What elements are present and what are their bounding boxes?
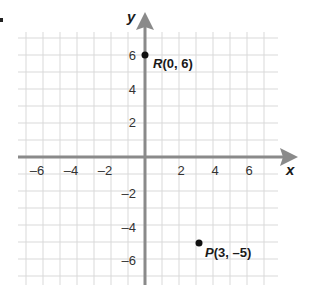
x-tick-label: –4 <box>64 163 78 178</box>
y-tick-label: 2 <box>129 115 136 130</box>
y-tick-label: –6 <box>122 253 136 268</box>
y-tick-label: –4 <box>122 220 136 235</box>
x-tick-label: 6 <box>245 163 252 178</box>
point-p-label: P(3, –5) <box>205 245 251 260</box>
x-axis-title: x <box>285 161 295 178</box>
point-p-coords: (3, –5) <box>214 245 252 260</box>
x-tick-label: 4 <box>211 163 218 178</box>
corner-mark <box>0 18 3 22</box>
point-r: R(0, 6) <box>142 52 193 72</box>
x-tick-label: –2 <box>98 163 112 178</box>
x-tick-labels: –6 –4 –2 2 4 6 <box>30 163 253 178</box>
point-p-dot <box>196 240 203 247</box>
point-r-coords: (0, 6) <box>162 56 192 71</box>
coordinate-plane: x y –6 –4 –2 2 4 6 6 4 2 –2 –4 –6 R(0, 6… <box>0 0 310 291</box>
x-tick-label: 2 <box>177 163 184 178</box>
point-p: P(3, –5) <box>196 240 252 261</box>
point-r-dot <box>142 52 149 59</box>
y-tick-label: –2 <box>122 186 136 201</box>
y-tick-label: 4 <box>129 82 136 97</box>
y-tick-label: 6 <box>129 48 136 63</box>
point-p-name: P <box>205 245 214 260</box>
y-axis-title: y <box>126 8 136 25</box>
x-tick-label: –6 <box>30 163 44 178</box>
point-r-label: R(0, 6) <box>153 56 193 71</box>
